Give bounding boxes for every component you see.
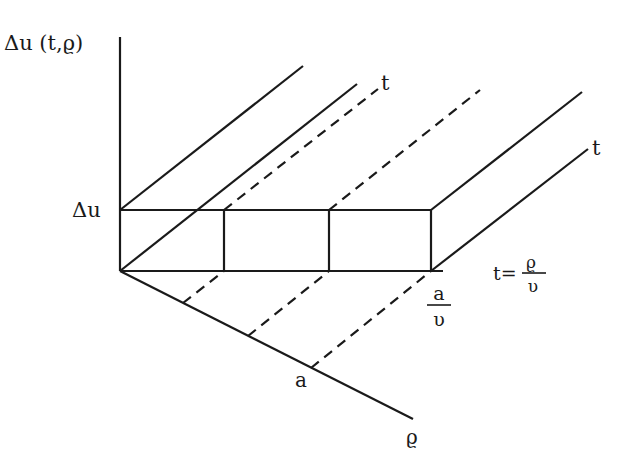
diag-bottom-right-t-axis — [431, 149, 588, 271]
t-right-label: t — [592, 136, 601, 160]
t-equation-lhs: t= — [493, 262, 517, 284]
dashed-diag-1-upper — [224, 89, 378, 210]
rho-axis-label: ϱ — [406, 425, 418, 449]
t-equation-denominator: υ — [528, 276, 538, 296]
y-axis-label: Δu (t,ϱ) — [4, 31, 83, 55]
dashed-diag-3-lower — [311, 271, 431, 368]
diagram-canvas: Δu (t,ϱ) Δu t t t= ϱ υ a υ a ϱ — [0, 0, 621, 464]
dashed-diag-2-lower — [248, 271, 329, 336]
a-over-v-numerator: a — [433, 282, 444, 304]
rho-axis — [120, 271, 413, 419]
diag-origin — [120, 84, 357, 271]
delta-u-label: Δu — [72, 198, 101, 222]
dashed-diag-2-upper — [329, 90, 480, 210]
dashed-diag-1-lower — [183, 271, 224, 303]
diag-top-left — [120, 66, 303, 210]
a-over-v-denominator: υ — [433, 308, 445, 330]
t-top-label: t — [381, 71, 390, 95]
t-equation-numerator: ϱ — [526, 252, 536, 272]
a-label: a — [295, 368, 307, 392]
